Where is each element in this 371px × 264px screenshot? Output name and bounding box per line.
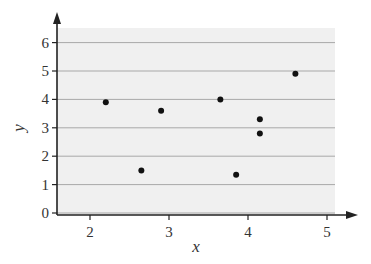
- y-axis-ticks: 0123456: [42, 35, 58, 221]
- data-point: [233, 172, 239, 178]
- y-tick-label: 3: [42, 120, 50, 136]
- data-point: [257, 130, 263, 136]
- y-tick-label: 6: [42, 35, 50, 51]
- plot-background: [57, 28, 335, 215]
- x-axis-label: x: [191, 237, 200, 256]
- x-tick-label: 4: [244, 224, 252, 240]
- x-tick-label: 2: [86, 224, 94, 240]
- data-point: [138, 167, 144, 173]
- data-point: [158, 108, 164, 114]
- y-axis-arrow-icon: [53, 12, 61, 24]
- data-point: [103, 99, 109, 105]
- y-tick-label: 4: [42, 91, 50, 107]
- x-axis-arrow-icon: [346, 211, 358, 219]
- y-tick-label: 5: [42, 63, 50, 79]
- y-tick-label: 2: [42, 148, 50, 164]
- plot-area: [57, 28, 335, 215]
- y-tick-label: 1: [42, 177, 50, 193]
- x-tick-label: 5: [323, 224, 331, 240]
- scatter-plot: 0123456 2345 x y: [0, 0, 371, 264]
- y-axis-label: y: [9, 124, 28, 134]
- data-point: [292, 71, 298, 77]
- data-point: [217, 96, 223, 102]
- x-axis-ticks: 2345: [86, 215, 331, 240]
- x-tick-label: 3: [165, 224, 173, 240]
- data-point: [257, 116, 263, 122]
- y-tick-label: 0: [42, 205, 50, 221]
